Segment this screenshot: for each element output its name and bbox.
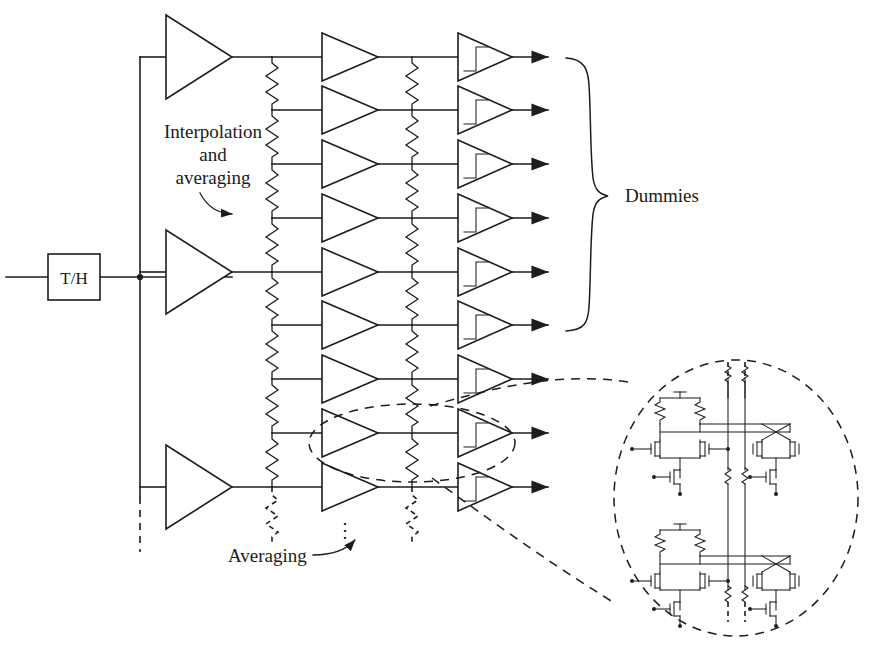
interpolation-amplifier-triangle: [322, 355, 378, 403]
interp-amp-row: [272, 33, 458, 81]
resistor-ladder-averaging: [406, 57, 418, 545]
interp-amp-row: [272, 463, 458, 511]
detail-cell-upper: [630, 392, 799, 496]
latch-row: [458, 194, 548, 242]
load-resistor-left: [655, 530, 665, 556]
detail-circuit: [630, 362, 799, 628]
track-and-hold-label: T/H: [60, 269, 87, 288]
bias-terminal: [652, 475, 656, 479]
interpolation-amplifier-column: [272, 33, 458, 511]
interp-amp-row: [272, 409, 458, 457]
latch-row: [458, 33, 548, 81]
interp-amp-row: [272, 301, 458, 349]
averaging-arrow-icon: [313, 540, 355, 555]
latch-row: [458, 301, 548, 349]
interpolation-amplifier-triangle: [322, 194, 378, 242]
averaging-label: Averaging: [228, 545, 307, 566]
interpolation-label-line3: averaging: [176, 167, 251, 188]
latch-triangle: [458, 301, 512, 349]
latch-clock-terminal: [748, 475, 752, 479]
dummies-label: Dummies: [625, 185, 699, 206]
zigzag-resistor: [266, 110, 278, 164]
input-amplifier-row-5: [140, 230, 272, 314]
input-terminal-left: [630, 447, 634, 451]
zigzag-resistor: [406, 379, 418, 433]
interpolation-label-line2: and: [199, 144, 227, 165]
input-terminal-right: [726, 447, 730, 451]
input-distribution-bus: [137, 57, 143, 552]
interp-amp-row: [272, 194, 458, 242]
input-amplifier-triangle: [166, 230, 232, 314]
zigzag-resistor: [266, 433, 278, 487]
interp-amp-row: [272, 140, 458, 188]
latch-row: [458, 355, 548, 403]
zigzag-resistor: [266, 272, 278, 325]
interpolation-amplifier-triangle: [322, 301, 378, 349]
zigzag-resistor: [406, 272, 418, 325]
resistor-ladder-interpolation: [266, 57, 278, 545]
interpolation-amplifier-triangle: [322, 248, 378, 296]
interp-amp-row: [272, 355, 458, 403]
interpolation-amplifier-triangle: [322, 463, 378, 511]
latch-triangle: [458, 140, 512, 188]
figure-root: T/H: [0, 0, 884, 662]
latch-triangle: [458, 33, 512, 81]
zigzag-resistor-continuation: [406, 487, 418, 545]
input-terminal-right: [726, 579, 730, 583]
input-amplifier-triangle: [166, 445, 232, 529]
interpolation-amplifier-triangle: [322, 140, 378, 188]
interp-amp-row: [272, 86, 458, 134]
circuit-diagram-canvas: T/H: [0, 0, 884, 662]
input-amplifier-triangle: [166, 15, 232, 99]
zigzag-resistor: [406, 164, 418, 218]
zigzag-resistor: [266, 57, 278, 110]
interpolation-amplifier-triangle: [322, 33, 378, 81]
zigzag-resistor: [406, 433, 418, 487]
interpolation-amplifier-triangle: [322, 409, 378, 457]
latch-row: [458, 86, 548, 134]
latch-triangle: [458, 409, 512, 457]
latch-triangle: [458, 463, 512, 511]
bias-terminal: [652, 607, 656, 611]
input-bus-junction: [137, 274, 143, 280]
latch-row: [458, 140, 548, 188]
latch-ground-terminal: [774, 624, 778, 628]
latch-row: [458, 248, 548, 296]
input-terminal-left: [630, 579, 634, 583]
latch-row: [458, 463, 548, 511]
load-resistor-right: [695, 530, 705, 556]
latch-triangle: [458, 86, 512, 134]
interpolation-arrow-icon: [200, 193, 232, 214]
dummies-brace: [566, 58, 608, 331]
ground-terminal: [678, 624, 682, 628]
interp-amp-row: [272, 248, 458, 296]
latch-triangle: [458, 194, 512, 242]
zigzag-resistor: [406, 325, 418, 379]
load-resistor-right: [695, 398, 705, 424]
latch-clock-terminal: [748, 607, 752, 611]
zigzag-resistor: [406, 57, 418, 110]
interpolation-amplifier-triangle: [322, 86, 378, 134]
load-resistor-left: [655, 398, 665, 424]
latch-ground-terminal: [774, 492, 778, 496]
averaging-ladder-rails: [725, 362, 748, 622]
zigzag-resistor: [406, 110, 418, 164]
latch-column: [458, 33, 548, 511]
latch-triangle: [458, 248, 512, 296]
zigzag-resistor-continuation: [266, 487, 278, 545]
zigzag-resistor: [266, 218, 278, 272]
zigzag-resistor: [266, 379, 278, 433]
latch-row: [458, 409, 548, 457]
column-continuation-ellipsis: ⋮: [335, 519, 355, 541]
input-amplifier-row-1: [140, 15, 272, 99]
zigzag-resistor: [406, 218, 418, 272]
ground-terminal: [678, 492, 682, 496]
detail-cell-lower: [630, 524, 799, 628]
input-amplifier-row-9: [140, 445, 272, 529]
detail-target-ellipse: [614, 360, 858, 636]
zigzag-resistor: [266, 325, 278, 379]
zigzag-resistor: [266, 164, 278, 218]
interpolation-label-line1: Interpolation: [164, 121, 263, 142]
